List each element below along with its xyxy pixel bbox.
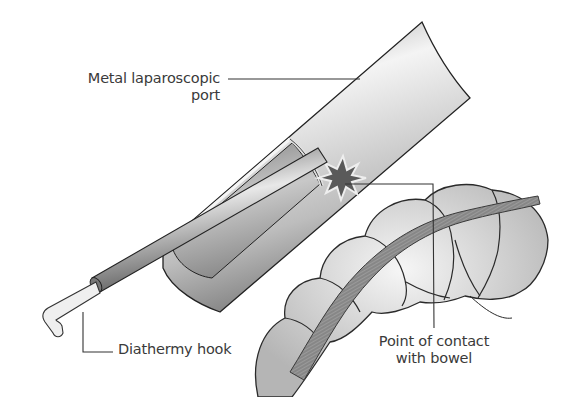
label-point-of-contact: Point of contact with bowel [364,333,504,367]
label-port-line1: Metal laparoscopic [54,70,220,87]
leader-line-hook [83,312,113,352]
label-diathermy-hook: Diathermy hook [118,341,231,358]
label-contact-line1: Point of contact [364,333,504,350]
label-contact-line2: with bowel [364,350,504,367]
label-metal-laparoscopic-port: Metal laparoscopic port [54,70,220,104]
label-hook-text: Diathermy hook [118,341,231,358]
label-port-line2: port [54,87,220,104]
